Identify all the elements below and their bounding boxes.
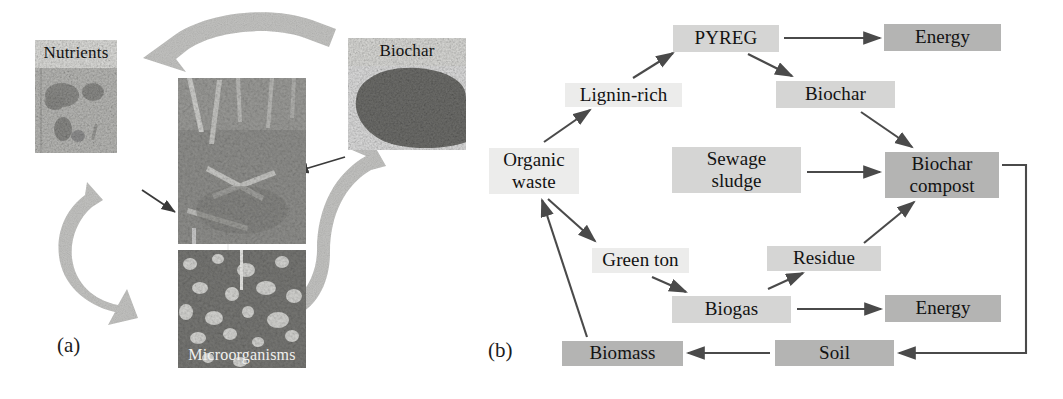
node-energy-bottom-label: Energy	[915, 297, 970, 319]
node-biogas-label: Biogas	[705, 298, 758, 320]
node-sewage-sludge-label: Sewage sludge	[707, 148, 767, 192]
node-biochar[interactable]: Biochar	[776, 81, 895, 108]
panel-b-label: (b)	[488, 338, 513, 363]
node-soil-label: Soil	[819, 342, 850, 364]
photo-soil-litter	[178, 78, 306, 244]
node-soil[interactable]: Soil	[775, 340, 894, 366]
node-biochar-label: Biochar	[805, 83, 866, 105]
edge-organic-waste-to-lignin-rich	[544, 110, 590, 142]
node-biogas[interactable]: Biogas	[672, 296, 791, 323]
edge-pyreg-to-biochar	[748, 54, 792, 76]
edge-green-ton-to-biogas	[652, 277, 686, 292]
node-biochar-compost-label: Biochar compost	[909, 153, 974, 197]
edge-organic-waste-to-green-ton	[548, 199, 595, 241]
node-energy-bottom[interactable]: Energy	[885, 295, 1001, 322]
node-green-ton-label: Green ton	[602, 249, 678, 271]
ribbon-nutrients-to-microorganisms	[58, 182, 138, 325]
node-organic-waste-label: Organic waste	[503, 149, 565, 193]
node-organic-waste[interactable]: Organic waste	[489, 148, 579, 194]
node-lignin-rich-label: Lignin-rich	[580, 84, 668, 106]
edge-biogas-to-residue	[768, 273, 803, 289]
photo-biochar: Biochar	[348, 38, 466, 150]
edge-lignin-rich-to-pyreg	[633, 53, 673, 78]
node-pyreg[interactable]: PYREG	[673, 25, 779, 52]
photo-nutrients: Nutrients	[35, 40, 117, 153]
panel-b-edges	[470, 0, 1063, 399]
node-green-ton[interactable]: Green ton	[592, 248, 689, 273]
figure-container: Nutrients	[0, 0, 1063, 399]
node-pyreg-label: PYREG	[695, 27, 758, 49]
photo-nutrients-caption: Nutrients	[35, 43, 117, 63]
photo-biochar-caption: Biochar	[348, 41, 466, 61]
node-energy-top[interactable]: Energy	[884, 24, 1001, 51]
node-biomass[interactable]: Biomass	[562, 341, 683, 366]
panel-a: Nutrients	[0, 0, 470, 399]
edge-biochar-to-biochar-compost	[861, 112, 912, 147]
arrow-nutrients-to-soil	[142, 190, 175, 212]
photo-microorganisms: Microorganisms	[178, 250, 306, 368]
photo-microorganisms-caption: Microorganisms	[178, 346, 306, 364]
node-energy-top-label: Energy	[915, 26, 970, 48]
node-residue-label: Residue	[793, 247, 855, 269]
node-residue[interactable]: Residue	[767, 246, 881, 271]
edge-residue-to-biochar-compost	[864, 202, 914, 243]
node-lignin-rich[interactable]: Lignin-rich	[565, 83, 682, 107]
edge-biomass-to-organic-waste	[542, 200, 587, 337]
node-biochar-compost[interactable]: Biochar compost	[885, 152, 999, 198]
node-sewage-sludge[interactable]: Sewage sludge	[672, 147, 801, 193]
node-biomass-label: Biomass	[589, 342, 655, 364]
panel-b: PYREG Energy Lignin-rich Biochar Organic…	[470, 0, 1063, 399]
ribbon-biochar-to-nutrients	[143, 12, 336, 72]
panel-a-label: (a)	[57, 333, 80, 358]
